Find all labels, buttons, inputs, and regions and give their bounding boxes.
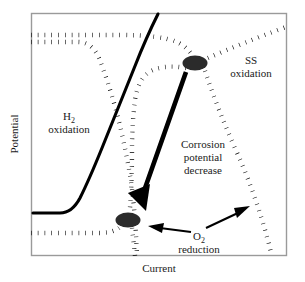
corrosion-potential-decrease-annotation: Corrosion potential decrease [181,138,226,176]
h2-symbol: H [63,110,71,122]
o2-symbol: O [193,230,201,242]
corrosion-line1-text: Corrosion [181,138,226,150]
diagram-canvas: Current Potential H2 oxidation SS oxidat… [0,0,305,282]
corrosion-line3-text: decrease [184,164,222,176]
o2-reduction-line2-text: reduction [178,243,220,255]
ss-oxidation-line1-text: SS [245,54,257,66]
x-axis-label: Current [142,262,176,274]
figure-background [0,0,305,282]
y-axis-label: Potential [8,114,20,153]
evans-diagram-figure: Current Potential H2 oxidation SS oxidat… [0,0,305,282]
lower-corrosion-point-node [116,213,141,228]
ss-oxidation-line2-text: oxidation [230,67,272,79]
upper-corrosion-point-node [183,56,208,71]
corrosion-line2-text: potential [184,151,223,163]
h2-oxidation-line2-text: oxidation [48,123,90,135]
